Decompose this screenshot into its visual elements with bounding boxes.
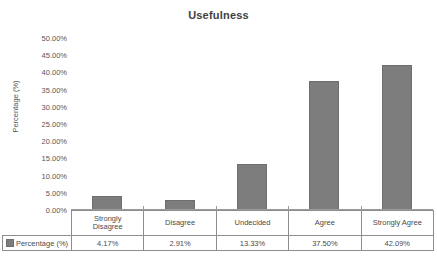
table-header-strongly-disagree: Strongly Disagree — [72, 211, 144, 236]
plot-area: 50.00% 45.00% 40.00% 35.00% 30.00% 25.00… — [71, 38, 433, 210]
bar-slot — [288, 38, 360, 210]
bar-strongly-agree[interactable] — [382, 65, 412, 210]
table-value-agree: 37.50% — [289, 236, 361, 251]
y-tick-label: 15.00% — [21, 154, 67, 163]
y-tick-label: 20.00% — [21, 137, 67, 146]
table-header-strongly-agree: Strongly Agree — [361, 211, 433, 236]
legend-label: Percentage (%) — [16, 239, 68, 248]
bar-agree[interactable] — [309, 81, 339, 210]
table-header-disagree: Disagree — [144, 211, 216, 236]
table-row-categories: Strongly Disagree Disagree Undecided Agr… — [3, 211, 434, 236]
y-tick-label: 45.00% — [21, 51, 67, 60]
table-header-undecided: Undecided — [216, 211, 288, 236]
figure-caption — [0, 268, 437, 273]
bar-slot — [361, 38, 433, 210]
y-tick-label: 10.00% — [21, 171, 67, 180]
table-corner-cell — [3, 211, 72, 236]
legend-swatch-icon — [6, 239, 14, 247]
table-value-strongly-disagree: 4.17% — [72, 236, 144, 251]
y-tick-label: 25.00% — [21, 120, 67, 129]
bar-slot — [71, 38, 143, 210]
y-tick-label: 35.00% — [21, 85, 67, 94]
y-tick-label: 30.00% — [21, 102, 67, 111]
y-tick-label: 50.00% — [21, 34, 67, 43]
bar-slot — [143, 38, 215, 210]
bar-series — [71, 38, 433, 210]
legend-entry-percentage: Percentage (%) — [3, 236, 72, 251]
y-tick-label: 40.00% — [21, 68, 67, 77]
table-header-agree: Agree — [289, 211, 361, 236]
bar-strongly-disagree[interactable] — [92, 196, 122, 210]
chart-title: Usefulness — [0, 9, 437, 21]
table-value-strongly-agree: 42.09% — [361, 236, 433, 251]
y-tick-label: 5.00% — [21, 188, 67, 197]
table-value-undecided: 13.33% — [216, 236, 288, 251]
y-axis-title: Percentage (%) — [11, 62, 20, 152]
table-row-values: Percentage (%) 4.17% 2.91% 13.33% 37.50%… — [3, 236, 434, 251]
chart-data-table: Strongly Disagree Disagree Undecided Agr… — [2, 210, 434, 251]
category-line-2: Disagree — [72, 223, 143, 232]
table-value-disagree: 2.91% — [144, 236, 216, 251]
bar-undecided[interactable] — [237, 164, 267, 210]
bar-slot — [216, 38, 288, 210]
bar-chart-figure: Usefulness Percentage (%) 50.00% 45.00% … — [0, 0, 437, 273]
